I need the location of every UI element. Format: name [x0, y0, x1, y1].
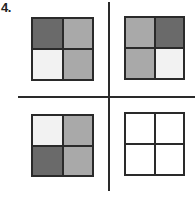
vertical-divider [108, 2, 110, 191]
grid-cell [32, 115, 63, 146]
grid-cell [32, 18, 63, 49]
grid-cell [155, 48, 185, 79]
grid-cell [63, 115, 94, 146]
grid-cell [63, 49, 94, 80]
grid-top-right [124, 16, 185, 80]
grid-cell [32, 146, 63, 177]
grid-cell [32, 49, 63, 80]
grid-bottom-left [31, 114, 94, 177]
grid-cell [155, 17, 185, 48]
grid-cell [125, 48, 155, 79]
grid-cell [63, 18, 94, 49]
question-number: 4. [1, 0, 11, 15]
grid-top-left [31, 17, 94, 81]
grid-cell[interactable] [125, 144, 155, 175]
horizontal-divider [18, 96, 195, 98]
grid-cell [125, 17, 155, 48]
grid-cell[interactable] [125, 113, 155, 144]
grid-cell[interactable] [155, 113, 185, 144]
grid-cell[interactable] [155, 144, 185, 175]
grid-bottom-right-answer[interactable] [124, 112, 185, 176]
grid-cell [63, 146, 94, 177]
